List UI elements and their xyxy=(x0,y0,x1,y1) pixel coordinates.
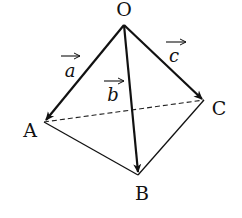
edge-AB xyxy=(44,122,138,175)
vertex-label-A: A xyxy=(22,119,37,141)
vector-a-label: a xyxy=(65,60,76,81)
vector-b-arrow xyxy=(124,25,138,172)
vector-a-arrow xyxy=(46,25,124,120)
vertex-label-O: O xyxy=(116,0,132,20)
vector-label-a: a xyxy=(61,56,80,81)
edge-BC xyxy=(138,100,204,175)
tetrahedron-diagram: O A B C a b c xyxy=(0,0,242,218)
vector-b-label: b xyxy=(107,84,119,105)
vector-label-c: c xyxy=(166,42,186,66)
vector-label-b: b xyxy=(104,81,124,105)
vertex-label-B: B xyxy=(135,182,149,204)
vertex-label-C: C xyxy=(212,97,227,119)
edge-AC-hidden xyxy=(44,100,204,122)
vector-c-label: c xyxy=(169,45,179,66)
vector-c-arrow xyxy=(124,25,202,99)
